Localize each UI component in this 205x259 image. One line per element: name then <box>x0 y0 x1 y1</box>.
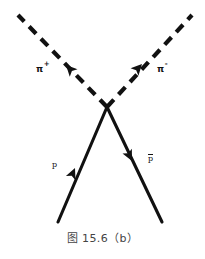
pion-plus-superscript: + <box>44 60 50 68</box>
pion-minus-superscript: - <box>165 60 168 68</box>
pion-minus-label: π- <box>157 59 168 75</box>
figure-caption: 图 15.6（b） <box>0 229 205 245</box>
feynman-diagram-figure: π+ π- p p 图 15.6（b） <box>0 0 205 259</box>
antiproton-symbol: p <box>148 155 153 163</box>
pion-plus-symbol: π <box>36 64 43 74</box>
pion-plus-line <box>18 15 107 107</box>
antiproton-line <box>107 107 162 222</box>
pion-plus-label: π+ <box>36 59 50 75</box>
antiproton-label: p <box>148 155 153 163</box>
proton-line <box>58 107 107 222</box>
pion-minus-symbol: π <box>157 64 164 74</box>
proton-label: p <box>52 161 57 169</box>
proton-symbol: p <box>52 160 57 169</box>
pion-minus-line <box>107 15 192 107</box>
feynman-diagram-canvas <box>0 0 205 259</box>
